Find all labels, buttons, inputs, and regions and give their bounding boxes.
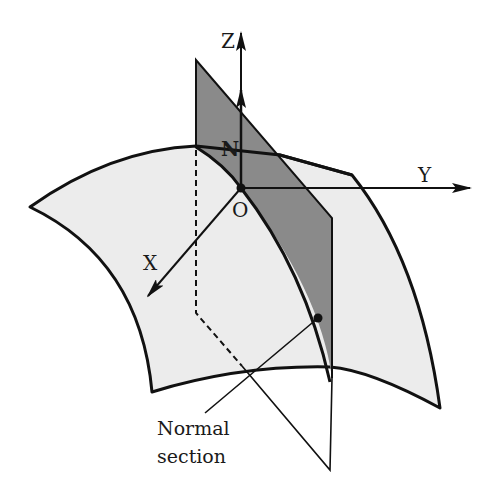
curved-surface — [30, 146, 440, 408]
normal-section-diagram: Z Y X O N Normal section — [0, 0, 487, 495]
plane-lower-edge — [242, 366, 332, 470]
origin-point — [237, 184, 246, 193]
origin-label: O — [232, 198, 248, 222]
x-axis-label: X — [143, 251, 158, 275]
y-axis-label: Y — [417, 163, 432, 187]
normal-vector-label: N — [221, 137, 239, 161]
section-point — [314, 314, 323, 323]
z-axis-label: Z — [221, 29, 235, 53]
caption-normal: Normal — [157, 417, 230, 439]
caption-section: section — [157, 445, 226, 467]
